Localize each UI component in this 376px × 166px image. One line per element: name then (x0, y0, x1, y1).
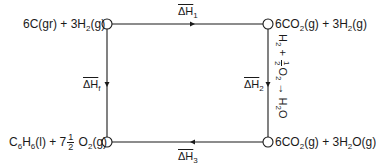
denominator: 2 (273, 60, 281, 66)
species-top-left: 6C(gr) + 3H2(g) (23, 17, 105, 31)
node-bottom-right (263, 137, 273, 147)
text: 6C(gr) + 3H (23, 17, 86, 31)
text: C (9, 135, 18, 149)
subscript: 2 (259, 84, 263, 93)
species-bottom-right: 6CO2(g) + 3H2O(g) (275, 135, 376, 149)
arrow-right-icon (190, 22, 195, 27)
delta-h: ΔH (83, 78, 98, 90)
text: (l) + 7 (35, 135, 66, 149)
text: H (22, 135, 31, 149)
text: 6CO (275, 17, 300, 31)
fraction: 12 (67, 133, 74, 152)
arrow-down-icon (266, 82, 271, 87)
text: H (277, 98, 289, 106)
text: (g) + 3H (304, 135, 348, 149)
label-dh1: ΔH1 (178, 5, 198, 17)
node-top-right (263, 19, 273, 29)
delta-h: ΔH (244, 78, 259, 90)
species-top-right: 6CO2(g) + 3H2(g) (275, 17, 367, 31)
delta-h: ΔH (178, 5, 193, 17)
arrow-down-icon (105, 82, 110, 87)
text: O (277, 67, 289, 76)
fraction: 12 (273, 60, 290, 66)
text: (g) (92, 135, 107, 149)
subscript: 1 (193, 11, 197, 20)
side-reaction: H2 + 12O2 → H2O (273, 34, 290, 119)
text: (g) (352, 17, 367, 31)
subscript: f (98, 84, 100, 93)
text: O (277, 110, 289, 119)
text: O(g) (352, 135, 376, 149)
delta-h: ΔH (178, 150, 193, 162)
label-dh3: ΔH3 (178, 150, 198, 162)
label-dh2: ΔH2 (244, 78, 264, 90)
text: (g) + 3H (304, 17, 348, 31)
species-bottom-left: C6H6(l) + 712 O2(g) (9, 133, 107, 152)
numerator: 1 (281, 60, 290, 66)
label-dhf: ΔHf (83, 78, 101, 90)
arrow-icon: → (277, 80, 289, 97)
text: H (277, 34, 289, 42)
text: + (277, 46, 289, 59)
subscript: 3 (193, 156, 197, 165)
text: (g) (90, 17, 105, 31)
denominator: 2 (67, 143, 74, 152)
arrow-left-icon (190, 140, 195, 145)
text: 6CO (275, 135, 300, 149)
text: O (75, 135, 88, 149)
